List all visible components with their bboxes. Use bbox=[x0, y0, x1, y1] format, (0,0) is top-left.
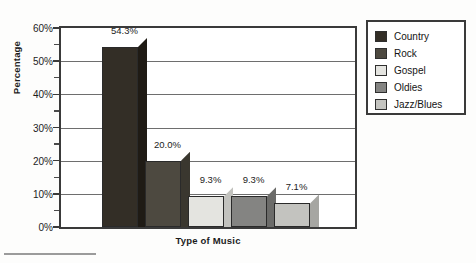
bar-jazz-blues bbox=[274, 194, 319, 227]
legend-item-jazz-blues[interactable]: Jazz/Blues bbox=[375, 96, 464, 112]
y-tick-label: 30% bbox=[11, 122, 53, 133]
bar-front-face bbox=[188, 196, 224, 227]
bar-data-label: 20.0% bbox=[139, 139, 196, 150]
legend-swatch-icon bbox=[375, 48, 387, 59]
legend-item-oldies[interactable]: Oldies bbox=[375, 79, 464, 95]
bar-rock bbox=[145, 152, 190, 227]
legend-label: Oldies bbox=[394, 82, 422, 93]
legend-label: Rock bbox=[394, 48, 417, 59]
bar-front-face bbox=[231, 196, 267, 227]
x-axis-title: Type of Music bbox=[59, 235, 357, 246]
legend-swatch-icon bbox=[375, 99, 387, 110]
legend-item-country[interactable]: Country bbox=[375, 28, 464, 44]
legend-label: Jazz/Blues bbox=[394, 99, 442, 110]
legend-swatch-icon bbox=[375, 31, 387, 42]
scan-artifact-line bbox=[4, 253, 96, 255]
bar-front-face bbox=[274, 203, 310, 227]
legend-item-gospel[interactable]: Gospel bbox=[375, 62, 464, 78]
bar-front-face bbox=[145, 161, 181, 227]
y-tick-label: 0% bbox=[11, 222, 53, 233]
bar-front-face bbox=[102, 47, 138, 227]
bar-oldies bbox=[231, 187, 276, 227]
y-tick-label: 60% bbox=[11, 23, 53, 34]
bar-country bbox=[102, 38, 147, 227]
y-tick-label: 50% bbox=[11, 56, 53, 67]
bar-data-label: 54.3% bbox=[96, 25, 153, 36]
legend-swatch-icon bbox=[375, 65, 387, 76]
y-tick-label: 40% bbox=[11, 89, 53, 100]
legend-swatch-icon bbox=[375, 82, 387, 93]
legend-label: Country bbox=[394, 31, 429, 42]
y-tick-label: 10% bbox=[11, 188, 53, 199]
bar-gospel bbox=[188, 187, 233, 227]
chart-screenshot: Percentage 0%10%20%30%40%50%60% 54.3%20.… bbox=[0, 0, 476, 263]
bar-side-face bbox=[310, 194, 319, 227]
y-tick-label: 20% bbox=[11, 155, 53, 166]
legend-label: Gospel bbox=[394, 65, 426, 76]
legend: CountryRockGospelOldiesJazz/Blues bbox=[366, 20, 466, 115]
bar-data-label: 7.1% bbox=[268, 181, 325, 192]
plot-area: 54.3%20.0%9.3%9.3%7.1% bbox=[59, 26, 357, 229]
legend-item-rock[interactable]: Rock bbox=[375, 45, 464, 61]
